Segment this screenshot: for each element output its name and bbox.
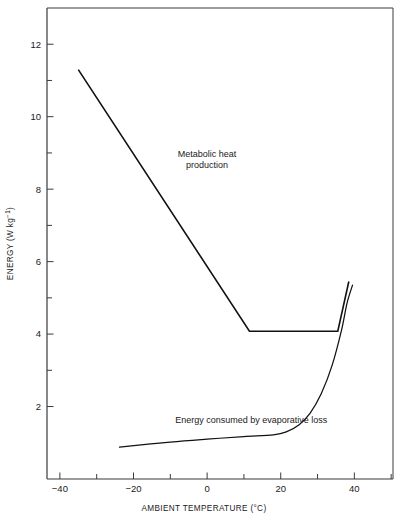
energy-vs-ambient-temperature-chart: 24681012 −40−2002040 Metabolic heat prod… — [0, 0, 403, 517]
x-tick-label: 0 — [204, 483, 209, 494]
x-tick-label: −40 — [52, 483, 68, 494]
svg-text:ENERGY (W kg−1): ENERGY (W kg−1) — [4, 207, 15, 280]
y-axis-title-superscript: −1 — [4, 210, 11, 218]
x-tick-label: 40 — [349, 483, 360, 494]
x-tick-label: 20 — [275, 483, 286, 494]
x-tick-label: −20 — [125, 483, 141, 494]
y-tick-label: 12 — [30, 39, 41, 50]
chart-annotations: Metabolic heat production Energy consume… — [175, 149, 328, 425]
evaporative-loss-label: Energy consumed by evaporative loss — [175, 415, 328, 425]
x-axis-ticks — [60, 473, 391, 480]
y-axis-title-main: ENERGY (W kg — [6, 218, 15, 280]
y-axis-ticks — [47, 44, 54, 406]
metabolic-heat-label-line1: Metabolic heat — [178, 149, 237, 159]
plot-frame — [47, 8, 393, 479]
y-axis-tick-labels: 24681012 — [30, 39, 41, 412]
metabolic-heat-label-line2: production — [186, 160, 228, 170]
x-axis-title: AMBIENT TEMPERATURE (°C) — [142, 504, 267, 513]
y-axis-title: ENERGY (W kg−1) — [4, 207, 15, 280]
y-tick-label: 8 — [36, 184, 41, 195]
y-tick-label: 10 — [30, 111, 41, 122]
chart-figure: 24681012 −40−2002040 Metabolic heat prod… — [0, 0, 403, 517]
y-axis-title-tail: ) — [6, 207, 15, 210]
series-metabolic-heat-production — [78, 70, 349, 332]
y-tick-label: 2 — [36, 401, 41, 412]
axis-lines — [47, 8, 393, 479]
y-tick-label: 4 — [36, 328, 41, 339]
y-tick-label: 6 — [36, 256, 41, 267]
data-series — [78, 70, 352, 448]
x-axis-tick-labels: −40−2002040 — [52, 483, 360, 494]
